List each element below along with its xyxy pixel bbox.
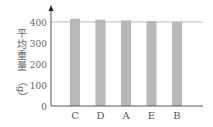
y-axis-label-char: 均: [16, 39, 28, 50]
y-axis-label-char: 量: [16, 61, 28, 72]
y-axis-label-char: 平: [16, 28, 28, 39]
bar-D: [96, 20, 106, 106]
chart-svg: CDAEB0100200300400: [0, 0, 213, 127]
bar-B: [172, 22, 182, 106]
x-tick-label: D: [96, 110, 104, 121]
x-tick-label: E: [148, 110, 155, 121]
y-tick-label: 100: [30, 81, 47, 91]
y-tick-label: 300: [30, 39, 47, 49]
y-tick-label: 0: [41, 102, 47, 112]
y-tick-label: 400: [30, 18, 47, 28]
bar-chart: CDAEB0100200300400 平 均 重 量 （g）: [0, 0, 213, 127]
bar-C: [70, 19, 80, 106]
x-tick-label: C: [71, 110, 79, 121]
x-tick-label: A: [121, 110, 130, 121]
y-axis-unit: （g）: [16, 76, 27, 102]
y-tick-label: 200: [30, 60, 47, 70]
y-axis-label-char: 重: [16, 50, 28, 61]
x-tick-label: B: [173, 110, 180, 121]
y-axis-arrow-icon: [49, 5, 54, 11]
bar-E: [147, 21, 157, 106]
bar-A: [121, 20, 131, 106]
y-axis-label: 平 均 重 量 （g）: [16, 28, 28, 102]
